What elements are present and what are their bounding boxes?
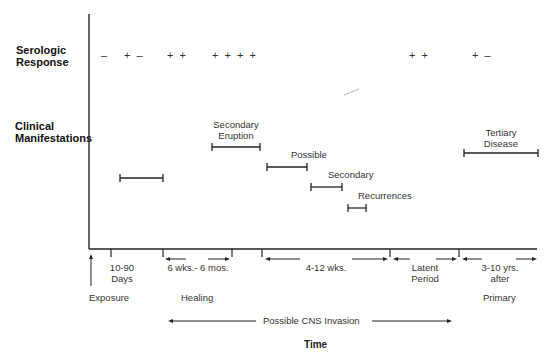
- primary-label: Primary: [483, 292, 516, 303]
- cns-invasion-label: Possible CNS Invasion: [263, 315, 360, 326]
- label-line: Period: [405, 273, 445, 284]
- secondary-eruption-label: Secondary Eruption: [205, 119, 267, 141]
- label-line: Tertiary: [468, 127, 534, 138]
- bar-recurrences: [348, 204, 366, 212]
- label-line: after: [478, 273, 522, 284]
- label-line: Latent: [405, 262, 445, 273]
- stray-mark: [344, 89, 359, 95]
- secondary-label: Secondary: [328, 169, 373, 180]
- tertiary-disease-label: Tertiary Disease: [468, 127, 534, 149]
- exposure-label: Exposure: [89, 292, 129, 303]
- latent-period-label: Latent Period: [405, 262, 445, 284]
- time-axis-title: Time: [304, 339, 327, 350]
- bar-secondary: [311, 183, 342, 191]
- label-line: Eruption: [205, 130, 267, 141]
- bar-secondary-eruption: [212, 143, 260, 151]
- label-line: Secondary: [205, 119, 267, 130]
- incubation-interval-label: 10-90 Days: [102, 262, 142, 284]
- diagram-canvas: [0, 0, 554, 355]
- label-line: Disease: [468, 138, 534, 149]
- bar-tertiary: [464, 149, 538, 157]
- healing-label: Healing: [181, 292, 213, 303]
- possible-label: Possible: [291, 149, 327, 160]
- label-line: 3-10 yrs.: [478, 262, 522, 273]
- bar-possible: [267, 163, 307, 171]
- label-line: Days: [102, 273, 142, 284]
- bar-primary: [120, 174, 163, 182]
- recurrences-label: Recurrences: [358, 190, 412, 201]
- label-line: 10-90: [102, 262, 142, 273]
- healing-interval-label: 6 wks.- 6 mos.: [160, 262, 236, 273]
- exposure-arrowhead: [89, 254, 93, 259]
- secondary-interval-label: 4-12 wks.: [300, 262, 352, 273]
- tertiary-interval-label: 3-10 yrs. after: [478, 262, 522, 284]
